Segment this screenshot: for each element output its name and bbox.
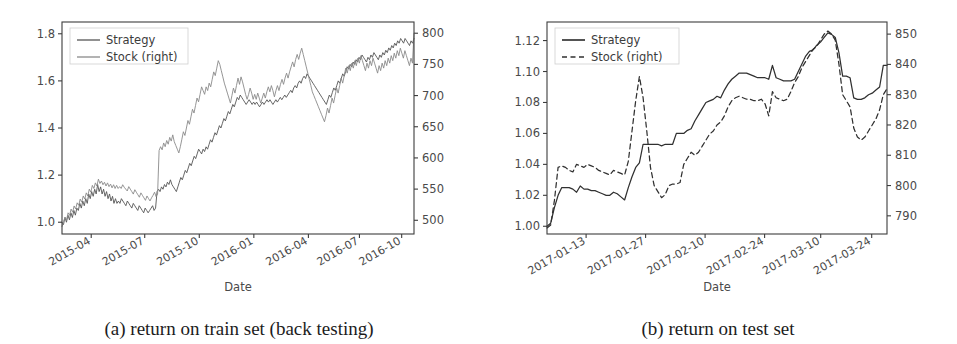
legend: StrategyStock (right)	[555, 28, 679, 64]
right-axis-tick-label: 650	[422, 120, 444, 134]
x-axis-tick-label: 2015-10	[154, 234, 200, 268]
x-axis-label: Date	[224, 280, 252, 294]
left-axis-tick-label: 1.06	[514, 126, 540, 140]
panel-a: 1.01.21.41.61.85005506006507007508002015…	[0, 0, 478, 344]
x-axis-tick-label: 2015-07	[100, 234, 146, 268]
right-axis-tick-label: 810	[895, 148, 917, 162]
legend-label-1: Strategy	[106, 33, 155, 47]
right-axis-tick-label: 830	[895, 88, 917, 102]
left-axis-tick-label: 1.4	[37, 121, 55, 135]
left-axis-tick-label: 1.10	[514, 65, 540, 79]
left-axis-tick-label: 1.00	[514, 219, 540, 233]
figure-container: 1.01.21.41.61.85005506006507007508002015…	[0, 0, 957, 344]
x-axis-tick-label: 2017-03-10	[760, 234, 822, 277]
right-axis-tick-label: 850	[895, 27, 917, 41]
legend-label-2: Stock (right)	[106, 50, 177, 64]
left-axis-tick-label: 1.02	[514, 188, 540, 202]
x-axis-tick-label: 2016-10	[357, 234, 403, 268]
left-axis-tick-label: 1.2	[37, 168, 55, 182]
legend-label-1: Strategy	[591, 33, 640, 47]
right-axis-tick-label: 800	[422, 26, 444, 40]
x-axis-label: Date	[703, 280, 731, 294]
left-axis-tick-label: 1.8	[37, 27, 55, 41]
left-axis-tick-label: 1.08	[514, 95, 540, 109]
right-axis-tick-label: 820	[895, 118, 917, 132]
left-axis-tick-label: 1.0	[37, 215, 55, 229]
x-axis-tick-label: 2016-07	[315, 234, 361, 268]
right-axis-tick-label: 750	[422, 57, 444, 71]
left-axis-tick-label: 1.04	[514, 157, 540, 171]
chart-a-svg: 1.01.21.41.61.85005506006507007508002015…	[0, 0, 478, 300]
right-axis-tick-label: 600	[422, 151, 444, 165]
right-axis-tick-label: 790	[895, 209, 917, 223]
x-axis-tick-label: 2017-01-13	[526, 234, 588, 277]
left-axis-tick-label: 1.12	[514, 34, 540, 48]
right-axis-tick-label: 840	[895, 57, 917, 71]
caption-a: (a) return on train set (back testing)	[0, 318, 478, 340]
chart-b-plot: 1.001.021.041.061.081.101.12790800810820…	[479, 0, 957, 300]
x-axis-tick-label: 2015-04	[46, 234, 92, 268]
right-axis-tick-label: 500	[422, 213, 444, 227]
legend: StrategyStock (right)	[70, 28, 188, 64]
legend-label-2: Stock (right)	[591, 50, 662, 64]
right-axis-tick-label: 550	[422, 182, 444, 196]
x-axis-tick-label: 2017-02-24	[704, 234, 766, 277]
x-axis-tick-label: 2017-02-10	[645, 234, 707, 277]
x-axis-tick-label: 2017-01-27	[585, 234, 647, 277]
right-axis-tick-label: 800	[895, 179, 917, 193]
x-axis-tick-label: 2016-01	[209, 234, 255, 268]
panel-b: 1.001.021.041.061.081.101.12790800810820…	[479, 0, 957, 344]
chart-a-plot: 1.01.21.41.61.85005506006507007508002015…	[0, 0, 478, 300]
x-axis-tick-label: 2016-04	[264, 234, 310, 268]
right-axis-tick-label: 700	[422, 89, 444, 103]
chart-b-svg: 1.001.021.041.061.081.101.12790800810820…	[479, 0, 957, 300]
caption-b: (b) return on test set	[479, 318, 957, 340]
left-axis-tick-label: 1.6	[37, 74, 55, 88]
x-axis-tick-label: 2017-03-24	[811, 234, 873, 277]
